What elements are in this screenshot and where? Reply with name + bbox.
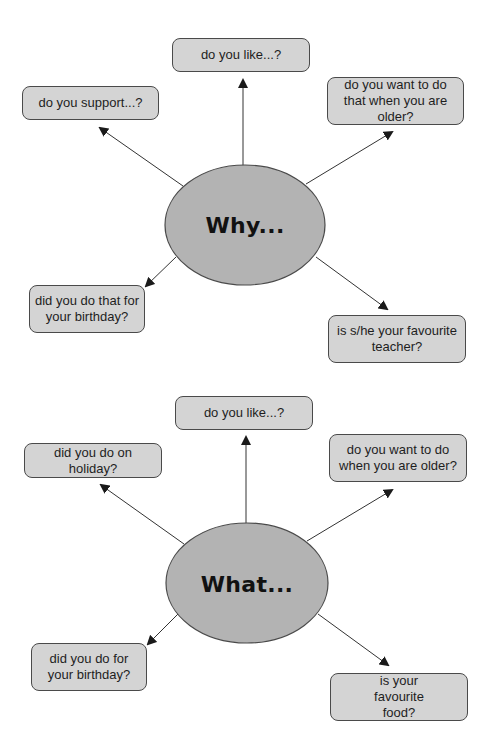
what-node-food: is your favourite food? xyxy=(330,673,468,721)
why-node-older: do you want to do that when you are olde… xyxy=(327,77,464,125)
what-hub-label: What... xyxy=(166,564,328,604)
what-node-birthday: did you do for your birthday? xyxy=(31,643,147,691)
what-node-older: do you want to do when you are older? xyxy=(329,434,467,482)
arrow-why-to-support xyxy=(100,128,183,186)
why-node-birthday: did you do that for your birthday? xyxy=(29,285,145,333)
arrow-what-to-birthday xyxy=(148,614,178,644)
why-node-support: do you support...? xyxy=(22,86,159,120)
arrow-what-to-holiday xyxy=(101,485,184,544)
why-hub-label: Why... xyxy=(165,205,325,245)
what-node-like: do you like...? xyxy=(175,396,313,430)
arrow-why-to-birthday xyxy=(146,257,176,286)
arrow-what-to-food xyxy=(318,614,388,665)
what-node-holiday: did you do on holiday? xyxy=(24,443,162,478)
why-node-teacher: is s/he your favourite teacher? xyxy=(328,315,466,363)
arrow-why-to-older xyxy=(306,132,392,184)
arrow-why-to-teacher xyxy=(316,257,387,309)
why-node-like: do you like...? xyxy=(172,38,310,72)
arrow-what-to-older xyxy=(307,490,392,541)
